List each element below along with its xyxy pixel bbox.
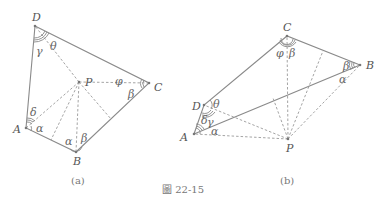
point-d-a xyxy=(34,25,37,28)
angle-alpha-b-a: α xyxy=(65,135,73,148)
label-d-b: D xyxy=(191,100,201,113)
label-b-b: B xyxy=(365,59,374,72)
angle-beta-b-b: β xyxy=(342,60,349,73)
point-d-b xyxy=(203,104,206,107)
angle-alpha-a-a: α xyxy=(36,122,44,135)
point-p-a xyxy=(78,81,81,84)
geometry-diagram: D C B A P γ θ φ β δ α α β (a) xyxy=(0,0,382,204)
angle-theta-d-a: θ xyxy=(50,40,57,53)
figure-caption: 圖 22-15 xyxy=(162,184,204,195)
label-b-a: B xyxy=(72,155,81,168)
angle-delta-a-b: δ xyxy=(201,114,208,127)
figure-22-15: D C B A P γ θ φ β δ α α β (a) xyxy=(0,0,382,204)
label-p-b: P xyxy=(285,142,294,155)
subfigure-b: A D C B P φ β β α θ γ δ α (b) xyxy=(179,21,374,186)
angle-delta-a-a: δ xyxy=(30,106,37,119)
angle-alpha-a-b: α xyxy=(211,125,219,138)
caption-b: (b) xyxy=(280,175,294,186)
point-b-a xyxy=(75,151,78,154)
point-b-b xyxy=(359,64,362,67)
angle-beta-c-b: β xyxy=(288,47,295,60)
point-a-a xyxy=(25,127,28,130)
label-a-a: A xyxy=(12,123,21,136)
label-p-a: P xyxy=(84,76,93,89)
caption-a: (a) xyxy=(71,175,85,186)
point-a-b xyxy=(193,133,196,136)
label-c-b: C xyxy=(283,21,292,34)
point-p-b xyxy=(287,138,290,141)
angle-theta-d-b: θ xyxy=(213,98,220,111)
point-c-a xyxy=(148,82,151,85)
point-c-b xyxy=(286,35,289,38)
label-c-a: C xyxy=(154,81,163,94)
subfigure-a: D C B A P γ θ φ β δ α α β (a) xyxy=(12,11,163,186)
angle-beta-b-a: β xyxy=(80,132,87,145)
label-d-a: D xyxy=(31,11,41,24)
label-a-b: A xyxy=(179,131,188,144)
angle-beta-c-a: β xyxy=(127,88,134,101)
angle-phi-c-a: φ xyxy=(115,75,123,88)
angle-gamma-d-a: γ xyxy=(36,45,43,58)
angle-phi-c-b: φ xyxy=(276,47,284,60)
angle-alpha-b-b: α xyxy=(339,73,347,86)
